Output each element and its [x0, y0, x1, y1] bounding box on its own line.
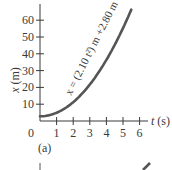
y-tick-label: 60 [22, 13, 34, 27]
x-axis-unit: (s) [154, 114, 170, 128]
y-tick-label: 50 [22, 30, 34, 44]
x-tick-label: 3 [87, 126, 93, 140]
x-axis-label: t (s) [151, 114, 170, 128]
next-panel-fragment [40, 163, 150, 170]
x-tick-label: 1 [54, 126, 60, 140]
y-tick-label: 10 [22, 97, 34, 111]
position-time-chart: 102030405060123456 x (m) t (s) 0 (a) x =… [0, 0, 172, 170]
y-axis-label: x (m) [8, 67, 22, 94]
y-tick-label: 20 [22, 80, 34, 94]
x-tick-label: 5 [120, 126, 126, 140]
panel-label: (a) [38, 141, 51, 155]
origin-label: 0 [28, 126, 34, 140]
y-axis-unit: (m) [8, 67, 22, 87]
x-tick-label: 4 [103, 126, 109, 140]
y-tick-label: 40 [22, 47, 34, 61]
axes [40, 4, 148, 121]
next-panel-curve-fragment [143, 163, 150, 170]
x-tick-label: 6 [137, 126, 143, 140]
y-tick-label: 30 [22, 64, 34, 78]
x-tick-label: 2 [70, 126, 76, 140]
